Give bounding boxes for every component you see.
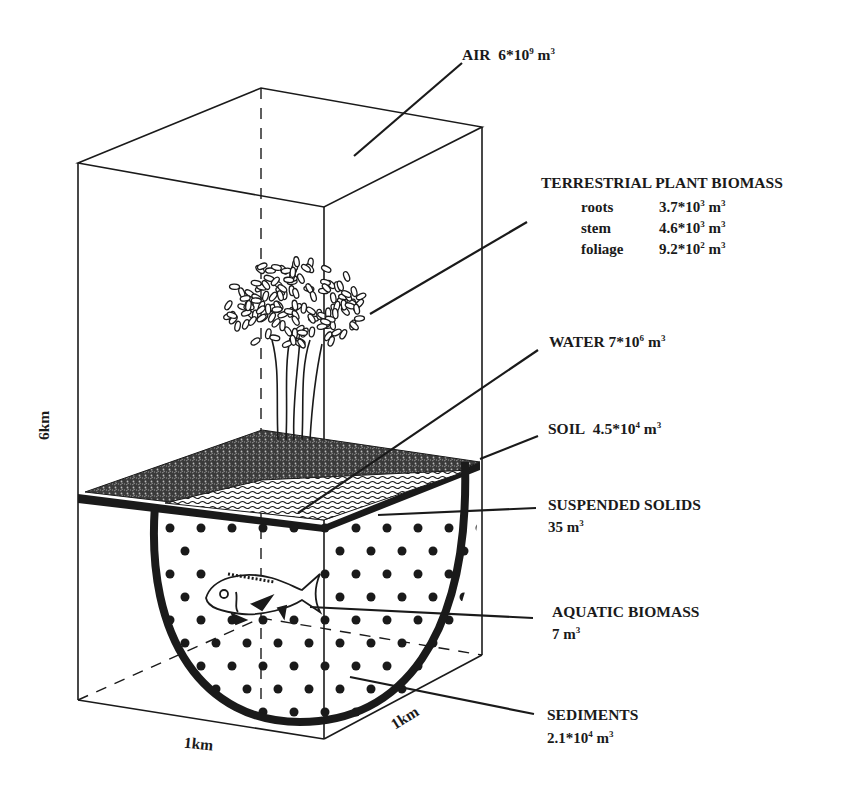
- label-suspended-solids: SUSPENDED SOLIDS: [548, 497, 701, 513]
- plant-part-roots-value: 3.7*103 m3: [659, 199, 726, 216]
- label-air: AIR 6*109 m3: [462, 47, 555, 63]
- label-soil: SOIL 4.5*104 m3: [548, 421, 661, 437]
- leader-plant: [370, 222, 527, 314]
- leader-soil: [480, 436, 538, 459]
- plant-part-stem-value: 4.6*103 m3: [659, 220, 726, 237]
- leader-sediments: [350, 677, 534, 714]
- dimension-height: 6km: [36, 411, 52, 440]
- compartment-diagram: [0, 0, 865, 794]
- value-aquatic-biomass: 7 m3: [552, 627, 580, 642]
- value-sediments: 2.1*104 m3: [547, 731, 614, 746]
- dimension-width: 1km: [183, 735, 214, 753]
- label-aquatic-biomass: AQUATIC BIOMASS: [552, 604, 699, 620]
- value-suspended-solids: 35 m3: [548, 520, 584, 535]
- label-water: WATER 7*106 m3: [549, 334, 665, 350]
- plant-part-foliage-value: 9.2*102 m3: [659, 241, 726, 258]
- plant-part-stem: stem: [581, 220, 611, 237]
- plant-part-foliage: foliage: [581, 241, 624, 258]
- label-sediments: SEDIMENTS: [547, 707, 638, 723]
- tree-icon: [223, 256, 367, 440]
- plant-part-roots: roots: [581, 199, 613, 216]
- label-plant-biomass: TERRESTRIAL PLANT BIOMASS: [541, 175, 783, 191]
- leader-air: [354, 63, 462, 156]
- leader-aquatic: [310, 607, 533, 618]
- leader-suspended: [378, 508, 536, 515]
